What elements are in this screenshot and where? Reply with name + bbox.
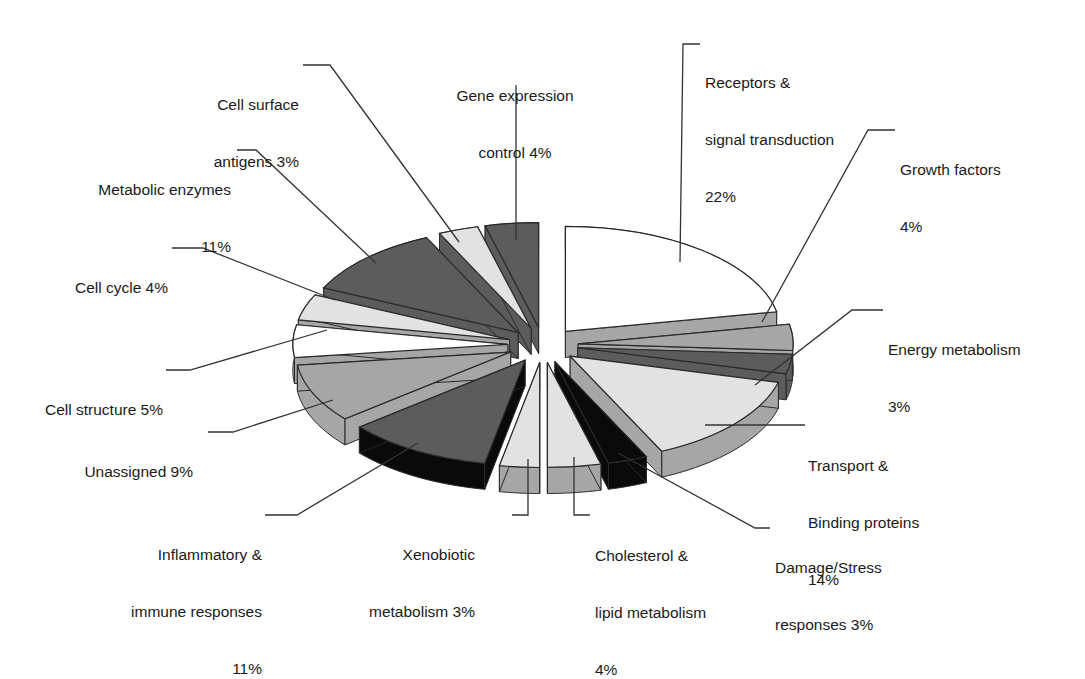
label-surface: Cell surface antigens 3%: [214, 57, 299, 190]
label-xenobiotic: Xenobiotic metabolism 3%: [369, 507, 475, 640]
label-text: Cell cycle 4%: [75, 278, 168, 297]
label-value: 11%: [131, 659, 262, 678]
leader-receptors: [680, 44, 700, 262]
label-value: 4%: [900, 217, 1001, 236]
label-value: responses 3%: [775, 615, 882, 634]
label-value: 11%: [98, 237, 231, 256]
label-text: Unassigned 9%: [84, 462, 193, 481]
label-value: 4%: [595, 660, 706, 679]
label-growth: Growth factors 4%: [900, 122, 1001, 255]
label-inflammatory: Inflammatory & immune responses 11%: [131, 507, 262, 679]
pie-slices: [293, 223, 793, 494]
label-structure: Cell structure 5%: [45, 362, 163, 438]
label-receptors: Receptors & signal transduction 22%: [705, 35, 834, 225]
label-text: Metabolic enzymes: [98, 180, 231, 199]
label-text: Gene expression: [430, 86, 600, 105]
label-text: Energy metabolism: [888, 340, 1021, 359]
label-value: 22%: [705, 187, 834, 206]
label-text: signal transduction: [705, 130, 834, 149]
label-text: Xenobiotic: [369, 545, 475, 564]
label-text: immune responses: [131, 602, 262, 621]
label-energy: Energy metabolism 3%: [888, 302, 1021, 435]
label-text: Inflammatory &: [131, 545, 262, 564]
label-text: lipid metabolism: [595, 603, 706, 622]
label-value: metabolism 3%: [369, 602, 475, 621]
label-text: Cholesterol &: [595, 546, 706, 565]
label-text: Cell surface: [214, 95, 299, 114]
label-damage: Damage/Stress responses 3%: [775, 520, 882, 653]
label-text: Receptors &: [705, 73, 834, 92]
label-metabolic: Metabolic enzymes 11%: [98, 142, 231, 275]
label-text: Damage/Stress: [775, 558, 882, 577]
label-cholesterol: Cholesterol & lipid metabolism 4%: [595, 508, 706, 679]
label-gene: Gene expression control 4%: [430, 48, 600, 181]
label-value: antigens 3%: [214, 152, 299, 171]
label-text: Growth factors: [900, 160, 1001, 179]
label-value: control 4%: [430, 143, 600, 162]
label-value: 3%: [888, 397, 1021, 416]
label-text: Transport &: [808, 456, 919, 475]
label-text: Cell structure 5%: [45, 400, 163, 419]
